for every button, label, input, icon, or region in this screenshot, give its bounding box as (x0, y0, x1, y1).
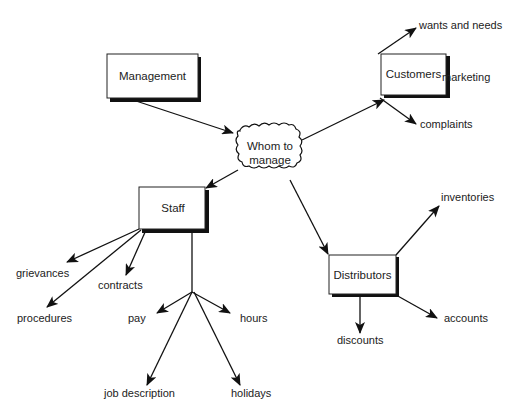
center-label-line1: Whom to (247, 140, 293, 152)
leaf-wants-and-needs: wants and needs (418, 19, 503, 31)
leaf-holidays: holidays (231, 387, 272, 399)
arrow-inventories (396, 206, 439, 255)
leaf-discounts: discounts (337, 334, 384, 346)
leaf-procedures: procedures (17, 312, 73, 324)
leaf-job-description: job description (103, 387, 175, 399)
node-management-label: Management (119, 70, 187, 82)
arrow-center-to-customers (302, 100, 384, 140)
leaf-pay: pay (128, 312, 146, 324)
leaf-marketing: marketing (442, 71, 490, 83)
node-distributors: Distributors (329, 255, 399, 297)
node-staff-label: Staff (161, 202, 185, 214)
leaf-complaints: complaints (420, 118, 473, 130)
node-management: Management (107, 54, 201, 102)
leaf-inventories: inventories (441, 191, 495, 203)
node-customers-label: Customers (386, 68, 442, 80)
leaf-accounts: accounts (444, 312, 489, 324)
leaf-contracts: contracts (98, 279, 143, 291)
center-label-line2: manage (249, 154, 291, 166)
arrow-center-to-distributors (290, 180, 328, 254)
arrow-complaints (380, 98, 416, 124)
node-distributors-label: Distributors (333, 269, 391, 281)
leaf-grievances: grievances (16, 267, 70, 279)
node-center-cloud: Whom to manage (236, 123, 302, 168)
arrow-accounts (396, 295, 437, 318)
mind-map-diagram: Management Customers Staff Distributors … (0, 0, 516, 420)
arrow-wants-and-needs (378, 28, 416, 54)
arrow-grievances (67, 229, 139, 262)
node-customers: Customers (381, 54, 450, 98)
leaf-hours: hours (240, 312, 268, 324)
arrow-center-to-staff (206, 170, 238, 188)
arrow-management-to-center (127, 98, 233, 133)
arrow-contracts (126, 230, 146, 275)
arrow-hours (192, 292, 230, 313)
node-staff: Staff (139, 187, 209, 233)
